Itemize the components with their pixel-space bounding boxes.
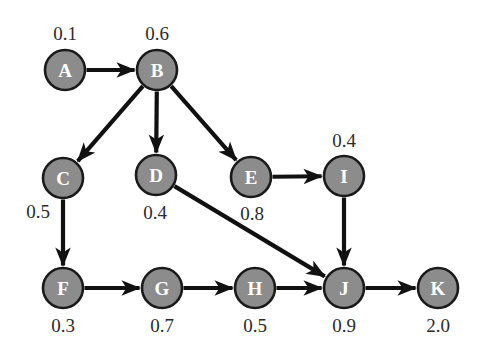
- graph-node-f[interactable]: F: [43, 268, 83, 308]
- graph-node-i[interactable]: I: [324, 156, 364, 196]
- node-label-g: G: [155, 278, 170, 299]
- graph-edge-b-to-d: [156, 91, 157, 152]
- graph-node-a[interactable]: A: [45, 50, 85, 90]
- node-value-c: 0.5: [26, 201, 50, 222]
- node-value-b: 0.6: [145, 23, 169, 44]
- node-label-f: F: [57, 278, 69, 299]
- node-label-e: E: [245, 167, 258, 188]
- graph-edge-d-to-j: [174, 186, 324, 276]
- node-label-h: H: [248, 278, 263, 299]
- node-value-f: 0.3: [51, 315, 75, 336]
- graph-node-k[interactable]: K: [418, 268, 458, 308]
- node-label-d: D: [149, 165, 163, 186]
- graph-node-c[interactable]: C: [43, 158, 83, 198]
- graph-canvas: ABCDEIFGHJK 0.10.60.50.40.80.40.30.70.50…: [0, 0, 485, 353]
- node-value-g: 0.7: [150, 315, 174, 336]
- graph-node-e[interactable]: E: [231, 157, 271, 197]
- graph-node-h[interactable]: H: [235, 268, 275, 308]
- node-label-j: J: [339, 278, 349, 299]
- graph-node-d[interactable]: D: [136, 155, 176, 195]
- node-value-i: 0.4: [332, 130, 356, 151]
- node-label-c: C: [56, 168, 70, 189]
- graph-edge-b-to-c: [78, 86, 143, 161]
- graph-node-b[interactable]: B: [137, 50, 177, 90]
- graph-figure: ABCDEIFGHJK 0.10.60.50.40.80.40.30.70.50…: [0, 0, 485, 353]
- node-value-a: 0.1: [53, 23, 77, 44]
- node-layer: ABCDEIFGHJK: [43, 50, 458, 308]
- node-label-i: I: [340, 166, 347, 187]
- node-value-j: 0.9: [332, 315, 356, 336]
- graph-node-g[interactable]: G: [142, 268, 182, 308]
- node-value-d: 0.4: [143, 202, 167, 223]
- node-label-b: B: [151, 60, 164, 81]
- node-label-a: A: [58, 60, 72, 81]
- graph-node-j[interactable]: J: [324, 268, 364, 308]
- node-value-k: 2.0: [426, 315, 450, 336]
- node-label-k: K: [431, 278, 446, 299]
- node-value-h: 0.5: [243, 315, 267, 336]
- graph-edge-b-to-e: [171, 86, 236, 160]
- graph-edge-e-to-i: [272, 176, 321, 177]
- node-value-e: 0.8: [240, 203, 264, 224]
